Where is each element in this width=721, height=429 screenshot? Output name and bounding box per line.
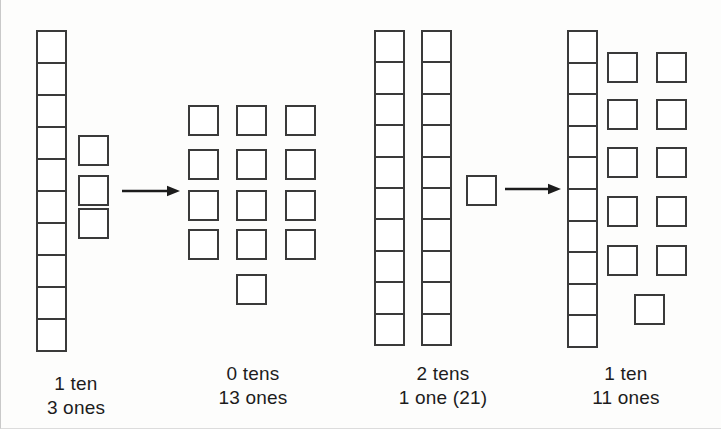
unit-cell (423, 315, 450, 344)
unit-cell (38, 160, 65, 192)
one-square (656, 147, 687, 178)
one-square (188, 229, 219, 260)
unit-cell (38, 320, 65, 350)
unit-cell (423, 220, 450, 251)
group-caption: 1 ten3 ones (20, 372, 132, 420)
one-square (236, 105, 267, 136)
one-square (466, 175, 497, 206)
caption-line-tens: 1 ten (20, 372, 132, 396)
place-value-regrouping-figure: 1 ten3 ones0 tens13 ones2 tens1 one (21)… (0, 0, 721, 429)
group-caption: 1 ten11 ones (565, 362, 687, 410)
caption-line-ones: 13 ones (192, 386, 314, 410)
unit-cell (376, 252, 403, 283)
one-square (634, 294, 665, 325)
unit-cell (569, 285, 596, 317)
unit-cell (38, 128, 65, 160)
one-square (188, 190, 219, 221)
one-square (78, 175, 109, 206)
one-square (285, 229, 316, 260)
unit-cell (423, 158, 450, 189)
unit-cell (376, 220, 403, 251)
unit-cell (569, 190, 596, 222)
one-square (656, 196, 687, 227)
unit-cell (376, 189, 403, 220)
unit-cell (38, 224, 65, 256)
unit-cell (423, 252, 450, 283)
unit-cell (38, 64, 65, 96)
one-square (236, 274, 267, 305)
caption-line-ones: 3 ones (20, 396, 132, 420)
unit-cell (423, 189, 450, 220)
unit-cell (38, 96, 65, 128)
unit-cell (569, 127, 596, 159)
unit-cell (38, 288, 65, 320)
one-square (285, 105, 316, 136)
unit-cell (38, 32, 65, 64)
one-square (285, 190, 316, 221)
one-square (236, 190, 267, 221)
regroup-arrow-icon (122, 184, 180, 198)
unit-cell (38, 256, 65, 288)
one-square (607, 99, 638, 130)
unit-cell (38, 192, 65, 224)
one-square (607, 245, 638, 276)
unit-cell (376, 283, 403, 314)
one-square (656, 52, 687, 83)
unit-cell (423, 95, 450, 126)
one-square (236, 229, 267, 260)
one-square (188, 149, 219, 180)
unit-cell (423, 283, 450, 314)
regroup-arrow-icon (505, 182, 561, 196)
unit-cell (376, 126, 403, 157)
unit-cell (423, 126, 450, 157)
caption-line-tens: 1 ten (565, 362, 687, 386)
unit-cell (569, 158, 596, 190)
group-caption: 2 tens1 one (21) (372, 362, 514, 410)
unit-cell (423, 63, 450, 94)
unit-cell (569, 253, 596, 285)
one-square (656, 99, 687, 130)
one-square (656, 245, 687, 276)
ten-rod (374, 30, 405, 346)
unit-cell (569, 222, 596, 254)
one-square (607, 52, 638, 83)
ten-rod (36, 30, 67, 352)
ten-rod (567, 30, 598, 348)
one-square (236, 149, 267, 180)
unit-cell (569, 95, 596, 127)
unit-cell (376, 32, 403, 63)
unit-cell (376, 63, 403, 94)
ten-rod (421, 30, 452, 346)
unit-cell (569, 316, 596, 346)
group-caption: 0 tens13 ones (192, 362, 314, 410)
caption-line-tens: 0 tens (192, 362, 314, 386)
unit-cell (423, 32, 450, 63)
one-square (607, 147, 638, 178)
one-square (607, 196, 638, 227)
caption-line-ones: 11 ones (565, 386, 687, 410)
unit-cell (376, 158, 403, 189)
unit-cell (569, 32, 596, 64)
unit-cell (376, 315, 403, 344)
one-square (78, 208, 109, 239)
unit-cell (376, 95, 403, 126)
caption-line-tens: 2 tens (372, 362, 514, 386)
one-square (188, 105, 219, 136)
one-square (78, 135, 109, 166)
caption-line-ones: 1 one (21) (372, 386, 514, 410)
unit-cell (569, 64, 596, 96)
one-square (285, 149, 316, 180)
